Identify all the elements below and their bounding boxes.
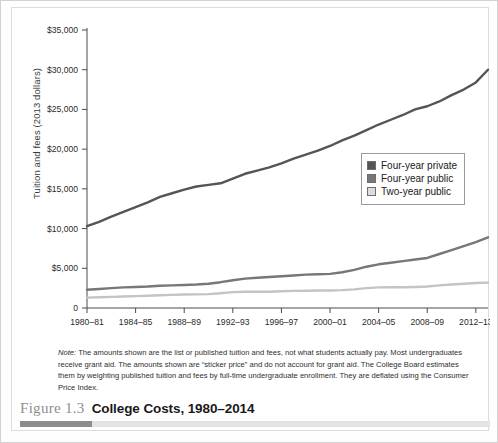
legend-item-four-year-public[interactable]: Four-year public	[367, 173, 457, 184]
svg-text:$25,000: $25,000	[47, 104, 78, 114]
figure-title: College Costs, 1980–2014	[92, 401, 255, 416]
figure-note: Note: The amounts shown are the list or …	[58, 347, 476, 393]
svg-text:$30,000: $30,000	[47, 65, 78, 75]
caption-rule-accent	[20, 421, 92, 427]
svg-text:1980–81: 1980–81	[70, 317, 104, 327]
svg-text:2000–01: 2000–01	[313, 317, 347, 327]
chart-legend: Four-year private Four-year public Two-y…	[361, 153, 465, 205]
figure-card: 0$5,000$10,000$15,000$20,000$25,000$30,0…	[11, 7, 489, 431]
svg-text:1992–93: 1992–93	[216, 317, 250, 327]
legend-label: Two-year public	[381, 186, 451, 197]
svg-text:1984–85: 1984–85	[119, 317, 153, 327]
svg-text:$10,000: $10,000	[47, 224, 78, 234]
svg-text:1988–89: 1988–89	[167, 317, 201, 327]
figure-page: 0$5,000$10,000$15,000$20,000$25,000$30,0…	[0, 0, 498, 443]
legend-swatch-icon	[367, 161, 376, 170]
svg-text:2012–13: 2012–13	[459, 317, 490, 327]
figure-number: Figure 1.3	[20, 400, 85, 417]
svg-text:$5,000: $5,000	[52, 263, 79, 273]
note-text: The amounts shown are the list or publis…	[58, 348, 469, 392]
svg-text:$20,000: $20,000	[47, 144, 78, 154]
svg-text:$15,000: $15,000	[47, 184, 78, 194]
legend-swatch-icon	[367, 174, 376, 183]
note-prefix: Note:	[58, 348, 76, 357]
svg-text:0: 0	[73, 303, 78, 313]
caption-rule	[20, 421, 490, 427]
svg-text:$35,000: $35,000	[47, 25, 78, 35]
legend-label: Four-year private	[381, 160, 457, 171]
svg-text:1996–97: 1996–97	[265, 317, 299, 327]
figure-caption-block: Figure 1.3 College Costs, 1980–2014	[12, 400, 490, 427]
legend-item-two-year-public[interactable]: Two-year public	[367, 186, 457, 197]
legend-item-four-year-private[interactable]: Four-year private	[367, 160, 457, 171]
y-axis-title: Tuition and fees (2013 dollars)	[31, 34, 42, 234]
svg-text:2004–05: 2004–05	[362, 317, 396, 327]
legend-swatch-icon	[367, 187, 376, 196]
legend-label: Four-year public	[381, 173, 453, 184]
svg-text:2008–09: 2008–09	[411, 317, 445, 327]
